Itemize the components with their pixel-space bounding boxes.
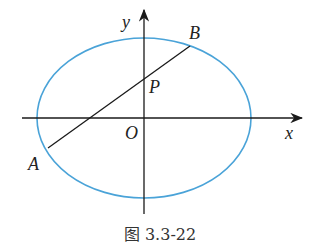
- x-axis-label: x: [284, 123, 293, 143]
- ellipse-diagram: y B P O x A 图 3.3-22: [0, 0, 319, 248]
- point-P-label: P: [148, 77, 160, 97]
- y-axis-label: y: [120, 12, 130, 32]
- figure-caption: 图 3.3-22: [124, 225, 196, 244]
- origin-label: O: [125, 123, 138, 143]
- point-B-label: B: [189, 23, 200, 43]
- point-A-label: A: [27, 154, 40, 174]
